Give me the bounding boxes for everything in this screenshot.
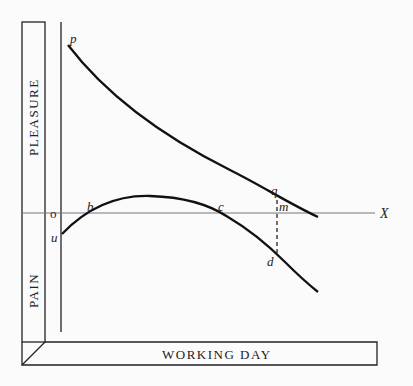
- point-p-label: p: [69, 31, 77, 46]
- point-u-label: u: [51, 230, 58, 245]
- pain-label: PAIN: [26, 273, 41, 308]
- point-b-label: b: [87, 199, 94, 214]
- frame-corner-diagonal: [22, 342, 45, 365]
- origin-label: o: [50, 206, 57, 221]
- jevons-labour-diagram: PLEASURE PAIN WORKING DAY p q o u b c m …: [0, 0, 413, 386]
- pleasure-label: PLEASURE: [26, 78, 41, 156]
- point-m-label: m: [279, 199, 288, 214]
- working-day-label: WORKING DAY: [162, 347, 272, 362]
- point-c-label: c: [218, 199, 224, 214]
- diagram-canvas: PLEASURE PAIN WORKING DAY p q o u b c m …: [0, 0, 413, 386]
- x-axis-label: X: [379, 206, 389, 221]
- point-d-label: d: [267, 254, 274, 269]
- pleasure-curve: [68, 45, 318, 217]
- point-q-label: q: [271, 183, 278, 198]
